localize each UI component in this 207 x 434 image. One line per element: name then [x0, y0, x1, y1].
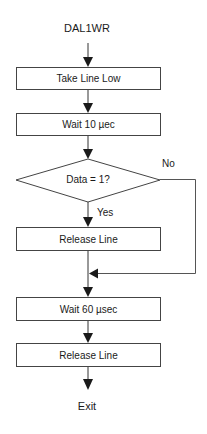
connector-wait-60-to-release-line — [83, 320, 93, 343]
arrow-down-icon — [83, 287, 93, 297]
connector-take-line-low-to-wait-10 — [83, 89, 93, 113]
connector-yes-to-release-line — [83, 202, 93, 227]
process-wait-60: Wait 60 µsec — [16, 297, 161, 321]
process-wait-10: Wait 10 µec — [16, 113, 161, 136]
arrow-down-icon — [83, 57, 93, 67]
decision-label: Data = 1? — [66, 174, 110, 186]
connector-release-line-to-exit — [83, 366, 93, 390]
arrow-left-icon — [89, 269, 98, 279]
no-branch-label: No — [162, 158, 175, 170]
yes-branch-label: Yes — [97, 207, 113, 219]
arrow-down-icon — [83, 149, 93, 159]
end-label: Exit — [78, 400, 96, 412]
arrow-down-icon — [83, 217, 93, 227]
process-release-line-2: Release Line — [16, 343, 161, 367]
process-take-line-low: Take Line Low — [16, 67, 161, 90]
arrow-down-icon — [83, 333, 93, 343]
process-label: Release Line — [59, 234, 117, 245]
process-label: Wait 10 µec — [62, 119, 115, 130]
connector-wait-10-to-decision — [83, 135, 93, 159]
connector-start-to-take-line-low — [83, 43, 93, 67]
start-label: DAL1WR — [64, 22, 110, 34]
process-label: Wait 60 µsec — [60, 304, 118, 315]
process-label: Release Line — [59, 350, 117, 361]
arrow-down-icon — [83, 103, 93, 113]
arrow-down-icon — [83, 379, 93, 390]
process-label: Take Line Low — [57, 73, 121, 84]
process-release-line-1: Release Line — [16, 227, 161, 251]
